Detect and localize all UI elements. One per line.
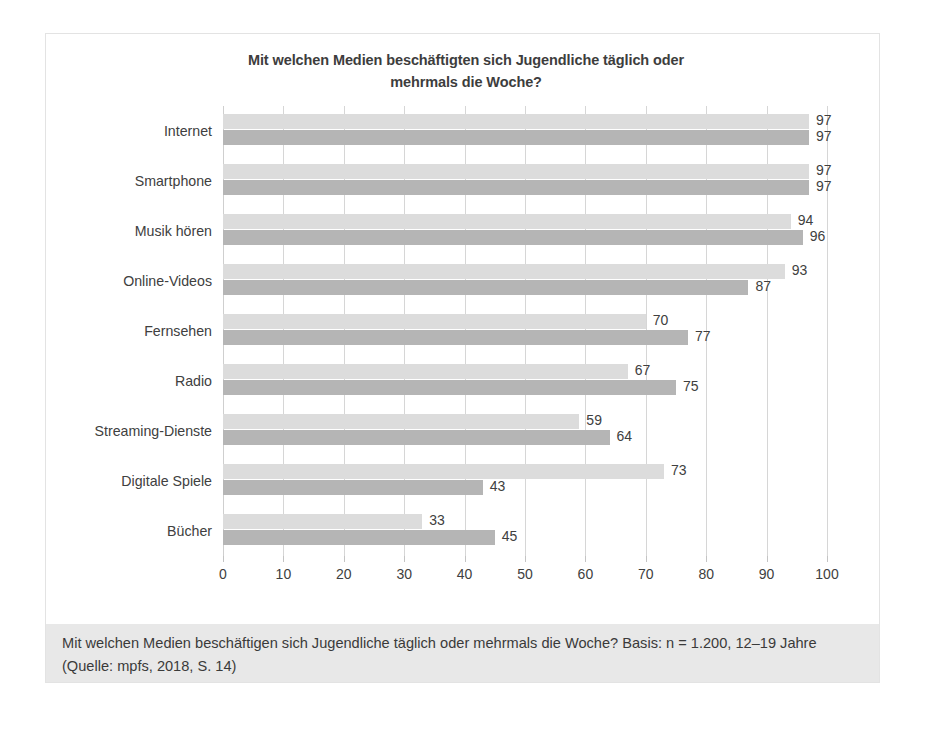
category-label: Musik hören: [32, 206, 223, 256]
x-tick-label: 60: [565, 566, 605, 582]
x-tick-label: 90: [747, 566, 787, 582]
bar-value-label: 93: [785, 263, 808, 278]
bar-group: Smartphone9797: [223, 156, 827, 206]
bar-value-label: 94: [791, 213, 814, 228]
bar-group: Radio6775: [223, 356, 827, 406]
category-label: Bücher: [32, 506, 223, 556]
bar-value-label: 33: [422, 513, 445, 528]
bar-jungen: [223, 514, 422, 529]
bar-value-label: 97: [809, 129, 832, 144]
bar-value-label: 97: [809, 179, 832, 194]
bar-value-label: 64: [610, 429, 633, 444]
tick-mark-80: [706, 556, 707, 562]
bar-jungen: [223, 264, 785, 279]
category-label: Radio: [32, 356, 223, 406]
bar-group: Internet9797: [223, 106, 827, 156]
bar-group: Streaming-Dienste5964: [223, 406, 827, 456]
category-label: Internet: [32, 106, 223, 156]
category-label: Smartphone: [32, 156, 223, 206]
bar-maedchen: [223, 380, 676, 395]
bar-value-label: 77: [688, 329, 711, 344]
bar-maedchen: [223, 480, 483, 495]
chart-title: Mit welchen Medien beschäftigten sich Ju…: [166, 49, 766, 93]
chart-title-line-1: Mit welchen Medien beschäftigten sich Ju…: [248, 52, 684, 68]
chart-area: Mit welchen Medien beschäftigten sich Ju…: [46, 34, 879, 624]
figure-container: Mit welchen Medien beschäftigten sich Ju…: [45, 33, 880, 683]
bar-value-label: 59: [579, 413, 602, 428]
x-tick-label: 30: [384, 566, 424, 582]
bar-value-label: 87: [748, 279, 771, 294]
bar-value-label: 73: [664, 463, 687, 478]
category-label: Online-Videos: [32, 256, 223, 306]
bar-jungen: [223, 464, 664, 479]
x-tick-label: 10: [263, 566, 303, 582]
bar-jungen: [223, 114, 809, 129]
bar-maedchen: [223, 430, 610, 445]
bar-value-label: 70: [646, 313, 669, 328]
tick-mark-10: [283, 556, 284, 562]
tick-mark-90: [767, 556, 768, 562]
bar-jungen: [223, 164, 809, 179]
bar-value-label: 43: [483, 479, 506, 494]
bar-value-label: 75: [676, 379, 699, 394]
bar-jungen: [223, 414, 579, 429]
tick-mark-40: [465, 556, 466, 562]
x-tick-label: 80: [686, 566, 726, 582]
x-tick-label: 50: [505, 566, 545, 582]
bar-maedchen: [223, 230, 803, 245]
category-label: Digitale Spiele: [32, 456, 223, 506]
x-tick-label: 70: [626, 566, 666, 582]
x-tick-label: 20: [324, 566, 364, 582]
tick-mark-0: [223, 556, 224, 562]
tick-mark-70: [646, 556, 647, 562]
bar-maedchen: [223, 530, 495, 545]
x-tick-label: 100: [807, 566, 847, 582]
plot-area: 0102030405060708090100 Internet9797Smart…: [223, 106, 827, 556]
bar-jungen: [223, 214, 791, 229]
tick-mark-20: [344, 556, 345, 562]
bar-value-label: 97: [809, 113, 832, 128]
x-tick-label: 40: [445, 566, 485, 582]
category-label: Streaming-Dienste: [32, 406, 223, 456]
bar-value-label: 96: [803, 229, 826, 244]
bar-group: Musik hören9496: [223, 206, 827, 256]
tick-mark-50: [525, 556, 526, 562]
bar-jungen: [223, 314, 646, 329]
bar-value-label: 67: [628, 363, 651, 378]
tick-mark-100: [827, 556, 828, 562]
bar-maedchen: [223, 280, 748, 295]
bar-maedchen: [223, 330, 688, 345]
bar-group: Bücher3345: [223, 506, 827, 556]
bar-value-label: 97: [809, 163, 832, 178]
caption-band: Mit welchen Medien beschäftigen sich Jug…: [46, 624, 879, 682]
bar-group: Online-Videos9387: [223, 256, 827, 306]
bar-value-label: 45: [495, 529, 518, 544]
tick-mark-30: [404, 556, 405, 562]
bar-group: Digitale Spiele7343: [223, 456, 827, 506]
x-tick-label: 0: [203, 566, 243, 582]
chart-title-line-2: mehrmals die Woche?: [390, 74, 542, 90]
tick-mark-60: [585, 556, 586, 562]
bar-maedchen: [223, 180, 809, 195]
caption-text: Mit welchen Medien beschäftigen sich Jug…: [62, 632, 863, 678]
bar-maedchen: [223, 130, 809, 145]
bar-jungen: [223, 364, 628, 379]
bar-group: Fernsehen7077: [223, 306, 827, 356]
category-label: Fernsehen: [32, 306, 223, 356]
